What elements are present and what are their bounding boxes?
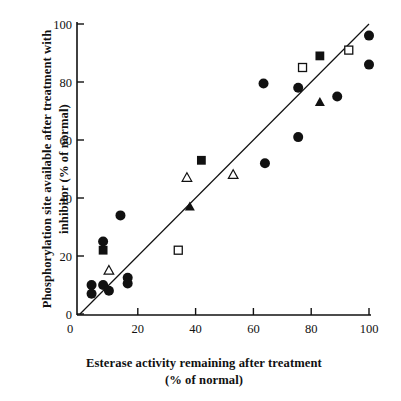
data-point-filled-circle (87, 280, 97, 290)
x-axis-label: Esterase activity remaining after treatm… (18, 355, 390, 389)
data-point-open-square (174, 246, 182, 254)
data-point-open-square (299, 64, 307, 72)
data-point-filled-square (197, 156, 206, 165)
x-tick-label-20: 20 (132, 322, 145, 336)
data-point-open-triangle (182, 173, 192, 182)
data-point-filled-circle (87, 289, 97, 299)
data-point-filled-circle (293, 83, 303, 93)
data-point-filled-triangle (315, 97, 325, 106)
data-point-filled-circle (364, 60, 374, 70)
data-markers (87, 31, 374, 299)
series-filled-square (99, 52, 325, 255)
x-tick-label-100: 100 (360, 322, 379, 336)
identity-reference-line (80, 24, 369, 314)
x-axis-tick-labels: 020406080100 (67, 322, 379, 336)
data-point-filled-triangle (185, 202, 195, 211)
y-axis-label-line1: Phosphorylation site available after tre… (40, 57, 54, 308)
data-point-filled-circle (104, 286, 114, 296)
scatter-plot-figure: 020406080100 020406080100 Phosphorylatio… (0, 0, 401, 401)
x-axis-ticks (138, 308, 369, 315)
y-axis-label: Phosphorylation site available after tre… (39, 19, 73, 319)
x-tick-label-0: 0 (67, 322, 73, 336)
data-point-open-triangle (228, 170, 238, 179)
x-axis-label-line2: (% of normal) (18, 372, 390, 389)
x-axis-label-line1: Esterase activity remaining after treatm… (86, 356, 322, 370)
x-tick-label-80: 80 (305, 322, 318, 336)
data-point-open-square (345, 46, 353, 54)
x-tick-label-40: 40 (189, 322, 202, 336)
series-filled-triangle (185, 97, 325, 210)
data-point-filled-square (315, 52, 324, 61)
data-point-filled-circle (98, 237, 108, 247)
series-filled-circle (87, 31, 374, 299)
data-point-filled-circle (259, 78, 269, 88)
identity-line (80, 24, 369, 314)
data-point-filled-circle (123, 279, 133, 289)
data-point-filled-circle (364, 31, 374, 41)
data-point-filled-circle (115, 210, 125, 220)
data-point-filled-square (99, 246, 108, 255)
data-point-open-triangle (104, 266, 114, 275)
data-point-filled-circle (332, 92, 342, 102)
data-point-filled-circle (293, 132, 303, 142)
y-axis-ticks (77, 24, 84, 314)
series-open-square (174, 46, 353, 254)
data-point-filled-circle (260, 158, 270, 168)
x-tick-label-60: 60 (247, 322, 260, 336)
